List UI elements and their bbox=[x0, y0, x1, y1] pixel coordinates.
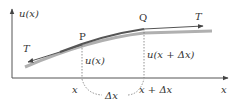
displacement-q-label: u(x + Δx) bbox=[147, 49, 195, 60]
x-right-label: x + Δx bbox=[139, 84, 173, 95]
point-p-label: P bbox=[79, 31, 86, 42]
x-axis-label: x bbox=[221, 84, 227, 95]
tension-left-label: T bbox=[23, 43, 31, 54]
string-tension-diagram: u(x) P Q T T u(x) u(x + Δx) x Δx x + Δx … bbox=[0, 0, 243, 104]
point-q-label: Q bbox=[139, 12, 147, 23]
tension-right-label: T bbox=[195, 11, 203, 22]
x-left-label: x bbox=[72, 84, 78, 95]
y-axis-label: u(x) bbox=[19, 8, 39, 19]
delta-x-label: Δx bbox=[104, 90, 118, 101]
displacement-p-label: u(x) bbox=[85, 55, 105, 66]
tension-right-arrow bbox=[144, 26, 203, 29]
